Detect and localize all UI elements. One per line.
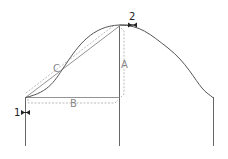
point-1-label: 1 — [14, 107, 20, 118]
point-2-label: 2 — [129, 11, 135, 22]
bell-curve — [120, 25, 214, 98]
dimension-a-label: A — [121, 59, 128, 70]
dimension-c-label: C — [53, 63, 60, 74]
dimension-b-label: B — [70, 98, 77, 109]
chord-line — [26, 26, 120, 98]
curve-diagram: 1 2 A B C — [0, 0, 228, 159]
